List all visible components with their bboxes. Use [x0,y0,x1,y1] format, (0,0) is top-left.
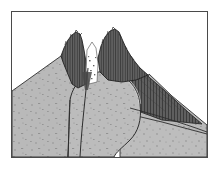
geological-cross-section-svg [12,12,207,157]
figure-root [0,0,219,169]
figure-frame [11,11,208,158]
